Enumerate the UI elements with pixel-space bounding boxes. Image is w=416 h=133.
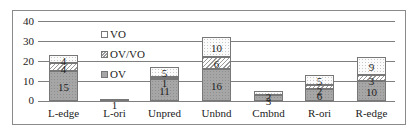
data-label: 3 (358, 76, 385, 87)
bar-segment-ov: 1 (100, 99, 129, 101)
data-label: 2 (306, 86, 333, 97)
data-label: 6 (203, 59, 230, 70)
data-label: 5 (306, 76, 333, 87)
legend-label: OV/VO (110, 48, 145, 60)
gridline (38, 21, 395, 22)
data-label: 2 (255, 92, 282, 103)
legend-item-ov-vo: OV/VO (101, 44, 145, 64)
data-label: 16 (203, 81, 230, 92)
y-tick-0: 0 (14, 95, 34, 106)
bar-l-ori: 1 (100, 99, 129, 101)
bar-segment-vo: 5 (305, 75, 334, 85)
x-tick-label: Unbnd (187, 107, 247, 119)
bar-r-edge: 1039 (357, 57, 386, 101)
data-label: 5 (151, 68, 178, 79)
bar-segment-ov: 16 (202, 69, 231, 101)
bar-segment-ov: 15 (49, 71, 78, 101)
legend-swatch-ov (101, 71, 108, 78)
x-tick-label: R-ori (290, 107, 350, 119)
legend-item-ov: OV (101, 64, 145, 84)
x-tick-label: R-edge (342, 107, 402, 119)
legend: VO OV/VO OV (101, 24, 145, 84)
bar-unpred: 1115 (150, 67, 179, 101)
bar-r-ori: 625 (305, 75, 334, 101)
bar-segment-ov-vo: 3 (357, 75, 386, 81)
bar-segment-vo: 5 (150, 67, 179, 77)
bar-segment-vo: 9 (357, 57, 386, 75)
bar-segment-vo: 10 (202, 37, 231, 57)
legend-swatch-ov-vo (101, 51, 108, 58)
data-label: 4 (50, 56, 77, 67)
y-tick-10: 10 (14, 76, 34, 87)
data-label: 10 (203, 43, 230, 54)
data-label: 9 (358, 62, 385, 73)
y-tick-40: 40 (14, 16, 34, 27)
legend-label: OV (110, 68, 126, 80)
data-label: 1 (151, 78, 178, 89)
legend-item-vo: VO (101, 24, 145, 44)
plot-area: 15441111516610326251039 (38, 21, 395, 101)
data-label: 10 (358, 87, 385, 98)
legend-swatch-vo (101, 31, 108, 38)
data-label: 15 (50, 82, 77, 93)
y-tick-30: 30 (14, 36, 34, 47)
bar-l-edge: 1544 (49, 55, 78, 101)
bar-unbnd: 16610 (202, 37, 231, 101)
bar-segment-vo: 2 (254, 91, 283, 95)
y-tick-20: 20 (14, 56, 34, 67)
bar-segment-ov-vo: 6 (202, 57, 231, 69)
bar-cmbnd: 32 (254, 91, 283, 101)
legend-label: VO (110, 28, 126, 40)
x-axis-line (38, 101, 395, 102)
x-tick-label: Unpred (135, 107, 195, 119)
bar-segment-vo: 4 (49, 55, 78, 63)
